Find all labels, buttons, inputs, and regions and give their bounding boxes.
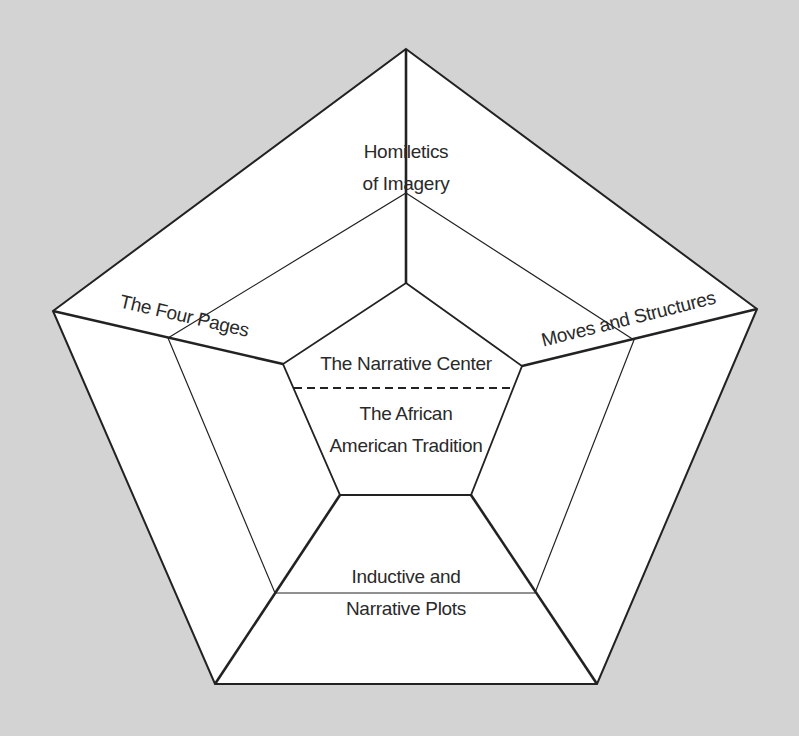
- pentagon-diagram: Homiletics of Imagery The Four Pages Mov…: [0, 0, 799, 736]
- label-homiletics-line1: Homiletics: [364, 141, 449, 162]
- label-inductive-line2: Narrative Plots: [346, 598, 466, 619]
- label-african-american-line1: The African: [360, 403, 453, 424]
- label-homiletics-line2: of Imagery: [363, 173, 451, 194]
- label-inductive-line1: Inductive and: [351, 566, 460, 587]
- label-narrative-center: The Narrative Center: [320, 353, 492, 374]
- label-african-american-line2: American Tradition: [329, 435, 482, 456]
